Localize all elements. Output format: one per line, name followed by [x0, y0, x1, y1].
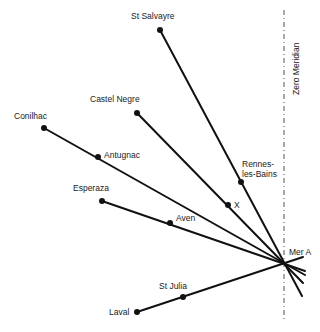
point-label: Antugnac [104, 150, 141, 160]
point-marker [238, 179, 244, 185]
point-marker [157, 27, 163, 33]
point-label: St Salvayre [131, 11, 175, 21]
point-label: St Julia [159, 281, 187, 291]
point-marker [134, 309, 140, 315]
alignment-line [160, 30, 302, 296]
point-dots [41, 27, 244, 315]
zero-meridian-label: Zero Meridian [291, 42, 301, 95]
point-marker [225, 202, 231, 208]
alignment-line [102, 201, 305, 271]
point-marker [167, 220, 173, 226]
point-marker [41, 125, 47, 131]
point-label: Aven [176, 213, 195, 223]
point-marker [134, 110, 140, 116]
point-label: Laval [109, 307, 129, 317]
alignment-diagram: Zero Meridian St SalvayreCastel NegreCon… [0, 0, 320, 332]
point-marker [180, 294, 186, 300]
point-label: X [234, 200, 240, 210]
point-label: Esperaza [73, 183, 109, 193]
point-label: Rennes-les-Bains [242, 159, 277, 179]
point-label: Conilhac [14, 111, 48, 121]
point-label: Castel Negre [90, 94, 140, 104]
point-marker [99, 198, 105, 204]
alignment-line [137, 113, 303, 283]
point-marker [95, 154, 101, 160]
point-labels: St SalvayreCastel NegreConilhacAntugnacR… [14, 11, 277, 317]
mer-a-label: Mer A [289, 247, 312, 257]
